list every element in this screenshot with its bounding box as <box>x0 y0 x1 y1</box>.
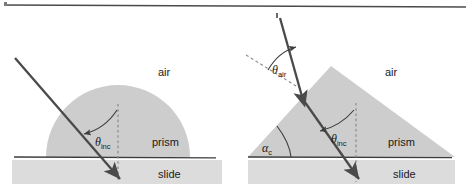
right-incident-ray-in-air[interactable] <box>280 18 303 100</box>
right-theta-air-label: θair <box>272 63 287 79</box>
right-alpha-c-subscript: c <box>268 148 272 157</box>
left-theta-inc-subscript: inc <box>101 142 111 151</box>
left-air-label: air <box>158 66 171 78</box>
right-theta-air-subscript: air <box>278 70 287 79</box>
top-left-speck <box>4 2 7 6</box>
hemispherical-prism-diagram: θinc air prism slide <box>12 58 222 184</box>
right-air-label: air <box>385 66 398 78</box>
left-slide-label: slide <box>158 168 181 180</box>
right-prism-triangle <box>248 66 455 157</box>
top-center-speck <box>276 13 278 18</box>
right-theta-inc-subscript: inc <box>337 139 347 148</box>
top-rule <box>4 5 466 7</box>
left-baseline <box>14 157 216 158</box>
triangular-prism-diagram: θair θinc αc air prism slide <box>246 18 455 184</box>
right-slide-label: slide <box>393 168 416 180</box>
left-slide-body <box>12 160 222 184</box>
left-prism-label: prism <box>152 136 179 148</box>
right-slide-body <box>248 160 455 184</box>
right-prism-label: prism <box>388 136 415 148</box>
prism-coupling-figure: θinc air prism slide θair θinc <box>0 0 472 191</box>
right-baseline <box>248 157 452 158</box>
